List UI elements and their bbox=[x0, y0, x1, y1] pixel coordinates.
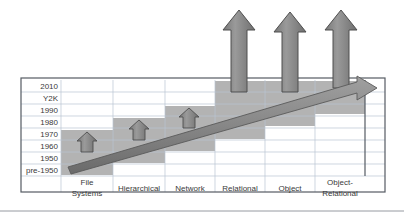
y-tick-label: 1970 bbox=[40, 130, 58, 139]
y-tick-label: 1990 bbox=[40, 106, 58, 115]
x-tick-label: Relational bbox=[222, 184, 258, 193]
database-evolution-chart: 2010 Y2K 1990 1980 1970 1960 1950 pre-19… bbox=[0, 0, 404, 222]
large-arrows bbox=[223, 10, 357, 92]
x-tick-label-relational: Relational bbox=[322, 189, 358, 198]
y-tick-label: pre-1950 bbox=[26, 166, 59, 175]
diagram-page: 2010 Y2K 1990 1980 1970 1960 1950 pre-19… bbox=[0, 0, 404, 222]
y-tick-label: 1980 bbox=[40, 118, 58, 127]
y-tick-label: 1960 bbox=[40, 142, 58, 151]
y-tick-label: 1950 bbox=[40, 154, 58, 163]
x-tick-label-systems: Systems bbox=[72, 189, 103, 198]
y-tick-label: Y2K bbox=[43, 94, 59, 103]
x-tick-label: Object bbox=[278, 184, 302, 193]
x-tick-label: Hierarchical bbox=[118, 184, 160, 193]
x-tick-label-file: File bbox=[81, 178, 94, 187]
x-tick-label: Network bbox=[175, 184, 205, 193]
x-tick-label-object: Object- bbox=[327, 178, 353, 187]
y-tick-label: 2010 bbox=[40, 82, 58, 91]
